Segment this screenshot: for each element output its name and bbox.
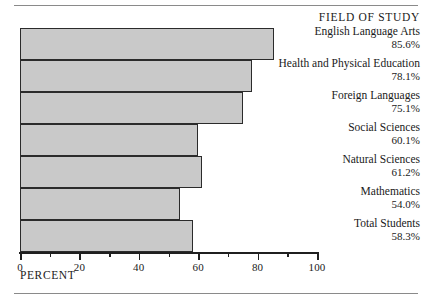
legend-entries: English Language Arts85.6%Health and Phy… [210,24,420,248]
legend-entry: Foreign Languages75.1% [210,88,420,120]
legend-entry: Natural Sciences61.2% [210,152,420,184]
legend-entry-value: 75.1% [392,102,420,115]
x-axis-major-tick [20,252,22,260]
legend-entry: Social Sciences60.1% [210,120,420,152]
legend-entry-label: Mathematics [361,184,420,198]
x-axis-major-tick [258,252,260,260]
bar [20,156,202,188]
legend-title: FIELD OF STUDY [210,10,420,24]
bar [20,188,180,220]
bar [20,124,198,156]
legend-entry-label: Social Sciences [348,120,420,134]
legend-entry-label: Health and Physical Education [279,56,420,70]
bar-chart-figure: 020406080100 PERCENT FIELD OF STUDY Engl… [0,0,432,304]
x-axis-major-tick [139,252,141,260]
legend-entry-value: 78.1% [392,70,420,83]
x-axis-tick-label: 80 [252,261,263,273]
legend-column: FIELD OF STUDY English Language Arts85.6… [210,10,420,248]
legend-entry-label: English Language Arts [315,24,420,38]
x-axis-title: PERCENT [20,269,75,281]
legend-entry-value: 61.2% [392,166,420,179]
x-axis-tick-label: 20 [74,261,85,273]
x-axis-major-tick [317,252,319,260]
x-axis-minor-tick [109,252,111,257]
x-axis-minor-tick [287,252,289,257]
legend-entry-value: 60.1% [392,134,420,147]
x-axis-major-tick [198,252,200,260]
legend-entry-value: 58.3% [392,230,420,243]
legend-entry-value: 85.6% [392,38,420,51]
legend-entry: English Language Arts85.6% [210,24,420,56]
top-divider-rule [14,5,418,6]
legend-entry-label: Natural Sciences [342,152,420,166]
legend-entry-label: Foreign Languages [332,88,420,102]
x-axis-tick-label: 60 [192,261,203,273]
x-axis-tick-label: 100 [308,261,325,273]
bottom-divider-rule [14,293,418,294]
legend-entry-value: 54.0% [392,198,420,211]
legend-entry: Health and Physical Education78.1% [210,56,420,88]
bar [20,220,193,252]
x-axis-major-tick [79,252,81,260]
x-axis-minor-tick [169,252,171,257]
x-axis: 020406080100 [20,252,317,264]
x-axis-minor-tick [50,252,52,257]
legend-entry: Mathematics54.0% [210,184,420,216]
legend-entry: Total Students58.3% [210,216,420,248]
x-axis-tick-label: 40 [133,261,144,273]
x-axis-minor-tick [228,252,230,257]
legend-entry-label: Total Students [354,216,420,230]
